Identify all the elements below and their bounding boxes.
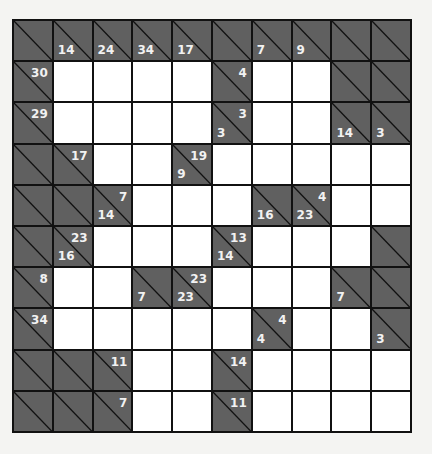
entry-cell[interactable] — [293, 351, 331, 390]
entry-cell[interactable] — [94, 103, 132, 142]
entry-cell[interactable] — [253, 62, 291, 101]
clue-cell: 199 — [173, 145, 211, 184]
entry-cell[interactable] — [293, 392, 331, 431]
entry-cell[interactable] — [332, 392, 370, 431]
entry-cell[interactable] — [173, 351, 211, 390]
entry-cell[interactable] — [253, 227, 291, 266]
entry-cell[interactable] — [372, 351, 410, 390]
across-clue: 8 — [39, 273, 47, 285]
entry-cell[interactable] — [133, 309, 171, 348]
clue-cell — [372, 21, 410, 60]
entry-cell[interactable] — [133, 62, 171, 101]
across-clue: 11 — [111, 356, 128, 368]
across-clue: 14 — [230, 356, 247, 368]
clue-cell — [372, 268, 410, 307]
entry-cell[interactable] — [54, 309, 92, 348]
entry-cell[interactable] — [332, 227, 370, 266]
clue-cell — [54, 392, 92, 431]
entry-cell[interactable] — [54, 268, 92, 307]
across-clue: 34 — [31, 314, 48, 326]
entry-cell[interactable] — [253, 268, 291, 307]
entry-cell[interactable] — [293, 227, 331, 266]
clue-cell — [54, 351, 92, 390]
clue-cell: 14 — [54, 21, 92, 60]
across-clue: 4 — [278, 314, 286, 326]
entry-cell[interactable] — [173, 227, 211, 266]
entry-cell[interactable] — [94, 268, 132, 307]
entry-cell[interactable] — [253, 351, 291, 390]
clue-cell: 44 — [253, 309, 291, 348]
diagonal-divider-icon — [54, 392, 92, 431]
clue-cell — [14, 145, 52, 184]
entry-cell[interactable] — [293, 62, 331, 101]
clue-cell — [14, 392, 52, 431]
clue-cell: 24 — [94, 21, 132, 60]
entry-cell[interactable] — [293, 145, 331, 184]
entry-cell[interactable] — [94, 145, 132, 184]
clue-cell — [332, 21, 370, 60]
across-clue: 7 — [119, 397, 127, 409]
entry-cell[interactable] — [372, 392, 410, 431]
entry-cell[interactable] — [332, 309, 370, 348]
down-clue: 9 — [297, 44, 305, 56]
clue-cell: 17 — [173, 21, 211, 60]
entry-cell[interactable] — [213, 145, 251, 184]
down-clue: 9 — [177, 168, 185, 180]
entry-cell[interactable] — [133, 227, 171, 266]
down-clue: 3 — [376, 333, 384, 345]
entry-cell[interactable] — [293, 309, 331, 348]
entry-cell[interactable] — [253, 103, 291, 142]
entry-cell[interactable] — [372, 186, 410, 225]
entry-cell[interactable] — [133, 186, 171, 225]
clue-cell: 7 — [133, 268, 171, 307]
across-clue: 3 — [238, 108, 246, 120]
entry-cell[interactable] — [372, 145, 410, 184]
entry-cell[interactable] — [332, 351, 370, 390]
entry-cell[interactable] — [173, 186, 211, 225]
entry-cell[interactable] — [253, 392, 291, 431]
clue-cell: 11 — [94, 351, 132, 390]
diagonal-divider-icon — [14, 351, 52, 390]
down-clue: 14 — [98, 209, 115, 221]
entry-cell[interactable] — [133, 392, 171, 431]
diagonal-divider-icon — [372, 62, 410, 101]
entry-cell[interactable] — [133, 351, 171, 390]
down-clue: 16 — [58, 250, 75, 262]
down-clue: 17 — [177, 44, 194, 56]
entry-cell[interactable] — [94, 309, 132, 348]
entry-cell[interactable] — [213, 268, 251, 307]
entry-cell[interactable] — [94, 227, 132, 266]
diagonal-divider-icon — [14, 227, 52, 266]
entry-cell[interactable] — [332, 186, 370, 225]
clue-cell — [14, 186, 52, 225]
entry-cell[interactable] — [133, 145, 171, 184]
entry-cell[interactable] — [253, 145, 291, 184]
entry-cell[interactable] — [54, 62, 92, 101]
down-clue: 14 — [58, 44, 75, 56]
entry-cell[interactable] — [173, 103, 211, 142]
entry-cell[interactable] — [213, 309, 251, 348]
across-clue: 13 — [230, 232, 247, 244]
down-clue: 23 — [177, 291, 194, 303]
across-clue: 19 — [190, 150, 207, 162]
entry-cell[interactable] — [213, 186, 251, 225]
clue-cell — [372, 227, 410, 266]
entry-cell[interactable] — [293, 103, 331, 142]
down-clue: 14 — [336, 127, 353, 139]
clue-cell: 7 — [253, 21, 291, 60]
entry-cell[interactable] — [54, 103, 92, 142]
down-clue: 7 — [137, 291, 145, 303]
entry-cell[interactable] — [173, 309, 211, 348]
entry-cell[interactable] — [173, 62, 211, 101]
diagonal-divider-icon — [14, 186, 52, 225]
entry-cell[interactable] — [94, 62, 132, 101]
clue-cell: 9 — [293, 21, 331, 60]
entry-cell[interactable] — [293, 268, 331, 307]
down-clue: 3 — [217, 127, 225, 139]
across-clue: 29 — [31, 108, 48, 120]
entry-cell[interactable] — [173, 392, 211, 431]
entry-cell[interactable] — [332, 145, 370, 184]
entry-cell[interactable] — [133, 103, 171, 142]
down-clue: 34 — [137, 44, 154, 56]
across-clue: 23 — [190, 273, 207, 285]
